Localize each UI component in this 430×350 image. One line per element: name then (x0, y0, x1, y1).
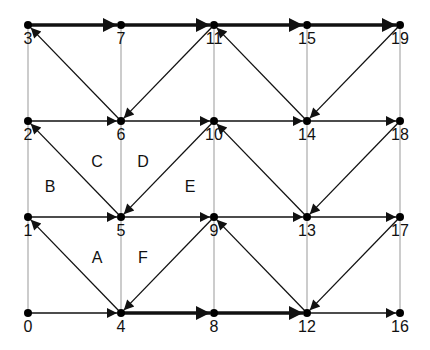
edge-12-to-9 (217, 220, 307, 313)
node-label-12: 12 (298, 318, 316, 335)
node-label-0: 0 (24, 318, 33, 335)
node-label-9: 9 (210, 222, 219, 239)
grid-lines (28, 25, 400, 313)
edge-17-to-12 (310, 217, 400, 310)
node-label-3: 3 (24, 30, 33, 47)
node-10 (210, 117, 218, 125)
node-label-2: 2 (24, 126, 33, 143)
node-8 (210, 309, 218, 317)
node-3 (24, 21, 32, 29)
edge-6-to-3 (31, 28, 121, 121)
node-9 (210, 213, 218, 221)
node-label-18: 18 (391, 126, 409, 143)
node-label-10: 10 (205, 126, 223, 143)
node-label-13: 13 (298, 222, 316, 239)
node-label-16: 16 (391, 318, 409, 335)
edge-14-to-11 (217, 28, 307, 121)
region-label-d: D (137, 153, 149, 170)
node-1 (24, 213, 32, 221)
node-13 (303, 213, 311, 221)
node-19 (396, 21, 404, 29)
node-5 (117, 213, 125, 221)
node-label-7: 7 (117, 30, 126, 47)
edge-19-to-14 (310, 25, 400, 118)
node-2 (24, 117, 32, 125)
region-label-a: A (92, 249, 103, 266)
region-labels: ABCDEF (45, 153, 196, 266)
node-label-19: 19 (391, 30, 409, 47)
node-17 (396, 213, 404, 221)
node-label-14: 14 (298, 126, 316, 143)
node-4 (117, 309, 125, 317)
node-14 (303, 117, 311, 125)
node-label-6: 6 (117, 126, 126, 143)
edge-5-to-2 (31, 124, 121, 217)
region-label-c: C (91, 153, 103, 170)
region-label-f: F (138, 249, 148, 266)
node-label-4: 4 (117, 318, 126, 335)
region-label-e: E (185, 178, 196, 195)
node-0 (24, 309, 32, 317)
node-12 (303, 309, 311, 317)
node-15 (303, 21, 311, 29)
edge-4-to-1 (31, 220, 121, 313)
node-label-11: 11 (206, 30, 223, 47)
node-11 (210, 21, 218, 29)
edge-18-to-13 (310, 121, 400, 214)
edge-13-to-10 (217, 124, 307, 217)
node-7 (117, 21, 125, 29)
node-label-1: 1 (24, 222, 33, 239)
region-label-b: B (45, 178, 56, 195)
node-label-17: 17 (391, 222, 409, 239)
edge-11-to-6 (124, 25, 214, 118)
directed-graph-diagram: 012345678910111213141516171819 ABCDEF (0, 0, 430, 350)
node-label-5: 5 (117, 222, 126, 239)
node-label-15: 15 (298, 30, 316, 47)
node-18 (396, 117, 404, 125)
node-6 (117, 117, 125, 125)
node-label-8: 8 (210, 318, 219, 335)
node-16 (396, 309, 404, 317)
